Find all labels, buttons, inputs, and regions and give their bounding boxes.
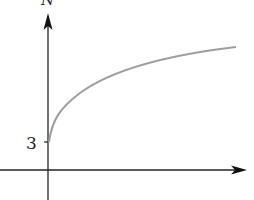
chart: 3 N bbox=[0, 0, 254, 200]
growth-curve bbox=[49, 47, 236, 142]
y-axis-label: N bbox=[40, 0, 55, 9]
y-tick-label: 3 bbox=[26, 133, 37, 153]
